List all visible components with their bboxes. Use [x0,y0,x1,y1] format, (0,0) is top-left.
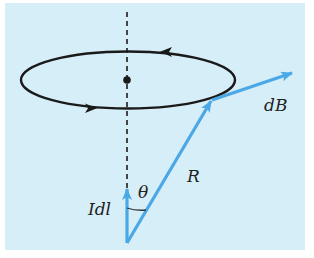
db-label: dB [264,95,287,115]
theta-arc [127,208,146,210]
biot-savart-diagram: dB R Idl θ [0,0,314,258]
theta-label: θ [138,182,148,202]
loop-arrow-bottom-icon [85,104,97,114]
idl-label: Idl [87,199,111,219]
r-label: R [186,166,200,186]
center-point [123,76,131,84]
loop-arrow-top-icon [160,47,172,57]
